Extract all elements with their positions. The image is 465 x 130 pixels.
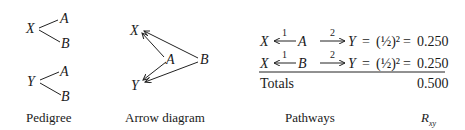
pathway-end: Y <box>348 56 356 72</box>
pedigree-x: X <box>26 22 35 36</box>
pathway-mid: B <box>298 56 307 72</box>
totals-value: 0.500 <box>417 76 449 92</box>
pathways-caption: Pathways <box>285 110 335 126</box>
pathway-value: 0.250 <box>417 56 449 72</box>
equals-sign: = <box>403 34 411 50</box>
pedigree-caption: Pedigree <box>26 110 71 126</box>
arrow-node-a: A <box>166 53 175 67</box>
rxy-subscript: xy <box>429 119 436 128</box>
path-coefficient-label: 2 <box>330 27 335 38</box>
totals-row: Totals 0.500 <box>260 76 465 94</box>
pedigree-x-child-b: B <box>61 37 70 51</box>
pathway-mid: A <box>298 34 307 50</box>
arrow-node-y: Y <box>131 79 139 93</box>
pedigree-y: Y <box>27 75 35 89</box>
arrow-diagram-caption: Arrow diagram <box>125 110 205 126</box>
pathway-value: 0.250 <box>417 34 449 50</box>
pedigree-y-child-a: A <box>60 65 69 79</box>
pathway-expression: (½)² <box>376 34 400 50</box>
path-coefficient-label: 2 <box>330 49 335 60</box>
arrow-node-x: X <box>130 24 139 38</box>
arrow-node-b: B <box>200 53 209 67</box>
path-coefficient-label: 1 <box>282 27 287 38</box>
pathway-expression: (½)² <box>376 56 400 72</box>
pathway-start: X <box>260 34 269 50</box>
totals-label: Totals <box>260 76 294 92</box>
pedigree-y-child-b: B <box>61 90 70 104</box>
equals-sign: = <box>362 56 370 72</box>
rxy-caption: Rxy <box>421 110 436 128</box>
equals-sign: = <box>362 34 370 50</box>
equals-sign: = <box>403 56 411 72</box>
path-coefficient-label: 1 <box>282 49 287 60</box>
pathway-end: Y <box>348 34 356 50</box>
pathway-start: X <box>260 56 269 72</box>
pathway-row: X 1 A 2 Y = (½)² = 0.250 <box>260 34 465 52</box>
rxy-letter: R <box>421 110 429 125</box>
pedigree-x-child-a: A <box>60 12 69 26</box>
pathway-row: X 1 B 2 Y = (½)² = 0.250 <box>260 56 465 74</box>
